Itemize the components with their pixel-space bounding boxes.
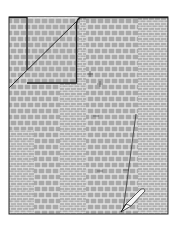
leather-diagram bbox=[0, 0, 178, 225]
diagram-canvas bbox=[0, 0, 178, 225]
